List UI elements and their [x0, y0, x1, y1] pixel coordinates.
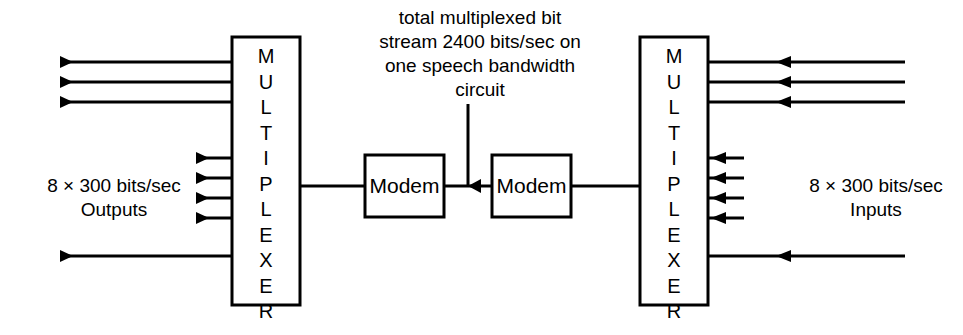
right-side-label: 8 × 300 bits/sec Inputs	[790, 174, 962, 222]
channel-arrowhead-right-top-2	[776, 76, 791, 88]
diagram-canvas: M U L T I P L E X E R M U L T I P L E X …	[0, 0, 963, 335]
trunk-caption-line-2: stream 2400 bits/sec on	[330, 30, 630, 54]
left-side-label: 8 × 300 bits/sec Outputs	[28, 174, 200, 222]
trunk-caption-line-4: circuit	[330, 78, 630, 102]
channel-arrowhead-right-mid-2	[711, 172, 726, 184]
channel-arrowhead-right-mid-4	[711, 212, 726, 224]
channel-arrowhead-right-mid-1	[711, 152, 726, 164]
modem-left-label: Modem	[365, 174, 444, 198]
mux-right-label: M U L T I P L E X E R	[640, 44, 708, 325]
left-side-direction-text: Outputs	[81, 199, 148, 220]
right-side-rate-text: 8 × 300 bits/sec	[809, 175, 943, 196]
trunk-caption-line-3: one speech bandwidth	[330, 54, 630, 78]
right-side-direction-text: Inputs	[850, 199, 902, 220]
channel-arrowhead-right-top-1	[776, 56, 791, 68]
channel-arrowhead-right-top-3	[776, 96, 791, 108]
channel-arrowhead-right-bottom-1	[776, 250, 791, 262]
mux-left-label: M U L T I P L E X E R	[232, 44, 300, 325]
trunk-caption-line-1: total multiplexed bit	[330, 6, 630, 30]
trunk-caption: total multiplexed bit stream 2400 bits/s…	[330, 6, 630, 102]
channel-arrowhead-right-mid-3	[711, 192, 726, 204]
left-side-rate-text: 8 × 300 bits/sec	[47, 175, 181, 196]
modem-right-label: Modem	[492, 174, 571, 198]
